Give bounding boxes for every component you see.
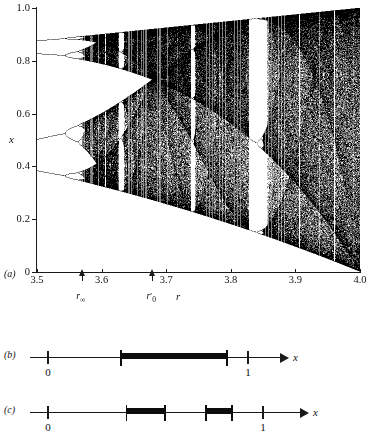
panel-b-tag: (b) — [4, 349, 16, 360]
y-tick-mark — [32, 272, 36, 273]
panel-c-number-line: (c) x 01 — [0, 395, 368, 444]
panel-b-arrowhead-icon — [280, 353, 289, 363]
attractor-interval-bar — [126, 408, 165, 414]
figure-bifurcation: 00.20.40.60.81.0 3.53.63.73.83.94.0 x r … — [0, 0, 368, 444]
panel-c-axis-line — [30, 412, 302, 413]
x-tick-mark — [360, 269, 361, 273]
panel-b-axis-label: x — [293, 351, 298, 363]
y-axis-label: x — [9, 133, 14, 145]
x-tick-mark — [166, 269, 167, 273]
number-line-tick — [47, 406, 48, 419]
panel-c-arrowhead-icon — [300, 408, 309, 418]
panel-c-axis-label: x — [313, 406, 318, 418]
y-tick-mark — [32, 8, 36, 9]
bifurcation-plot-canvas — [37, 8, 360, 272]
attractor-interval-bar — [206, 408, 232, 414]
number-line-tick-label: 1 — [253, 421, 273, 433]
y-axis-line — [36, 7, 37, 273]
x-axis-label: r — [176, 290, 180, 302]
interval-endpoint-cap — [120, 350, 121, 366]
y-tick-label: 0.6 — [17, 109, 30, 119]
x-tick-label: 3.6 — [85, 274, 119, 285]
r-infinity-label: r∞ — [76, 290, 85, 304]
x-tick-label: 3.5 — [20, 274, 54, 285]
attractor-interval-bar — [121, 353, 227, 359]
interval-endpoint-cap — [164, 405, 165, 421]
interval-endpoint-cap — [126, 405, 127, 421]
y-tick-mark — [32, 114, 36, 115]
x-tick-mark — [295, 269, 296, 273]
panel-a-tag: (a) — [4, 268, 16, 279]
number-line-tick-label: 1 — [238, 366, 258, 378]
x-tick-label: 4.0 — [343, 274, 368, 285]
r-zero-prime-arrow-icon — [149, 269, 155, 276]
y-tick-label: 1.0 — [17, 3, 30, 13]
number-line-tick — [47, 351, 48, 364]
number-line-tick — [262, 406, 263, 419]
x-tick-mark — [231, 269, 232, 273]
y-tick-mark — [32, 61, 36, 62]
y-tick-label: 0.4 — [17, 161, 30, 171]
x-tick-mark — [37, 269, 38, 273]
y-tick-mark — [32, 219, 36, 220]
panel-c-tag: (c) — [4, 404, 15, 415]
x-tick-label: 3.8 — [214, 274, 248, 285]
panel-b-number-line: (b) x 01 — [0, 340, 368, 396]
x-tick-label: 3.9 — [278, 274, 312, 285]
interval-endpoint-cap — [231, 405, 232, 421]
number-line-tick-label: 0 — [38, 421, 58, 433]
number-line-tick-label: 0 — [38, 366, 58, 378]
y-tick-mark — [32, 166, 36, 167]
y-tick-label: 0.8 — [17, 56, 30, 66]
y-tick-label: 0.2 — [17, 214, 30, 224]
number-line-tick — [247, 351, 248, 364]
panel-a-bifurcation-diagram: 00.20.40.60.81.0 3.53.63.73.83.94.0 x r … — [0, 0, 368, 322]
r-zero-prime-label: r′0 — [146, 290, 156, 304]
r-infinity-arrow-icon — [79, 269, 85, 276]
x-tick-mark — [102, 269, 103, 273]
interval-endpoint-cap — [226, 350, 227, 366]
interval-endpoint-cap — [205, 405, 206, 421]
